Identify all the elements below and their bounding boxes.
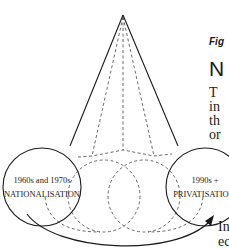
cone-outline [70, 15, 178, 146]
figure-label: Fig [209, 36, 224, 47]
paragraph-line: In [218, 220, 229, 234]
left-circle-policy-label: NATIONALISATION [4, 189, 80, 199]
paragraph-line: or [209, 128, 221, 142]
left-circle-era-label: 1960s and 1970s [13, 175, 70, 185]
dashed-rays [78, 17, 172, 157]
paragraph-line: in [209, 100, 220, 114]
left-circle-nationalisation: 1960s and 1970s NATIONALISATION [3, 148, 81, 226]
section-heading: N [209, 58, 224, 79]
right-circle-policy-label: PRIVATISATION [173, 189, 229, 199]
paragraph-line: th [209, 114, 220, 128]
paragraph-line: ec [218, 235, 229, 249]
nationalisation-privatisation-diagram: 1960s and 1970s NATIONALISATION 1990s + … [0, 0, 229, 250]
paragraph-line: T [209, 86, 218, 100]
right-circle-era-label: 1990s + [191, 175, 218, 185]
